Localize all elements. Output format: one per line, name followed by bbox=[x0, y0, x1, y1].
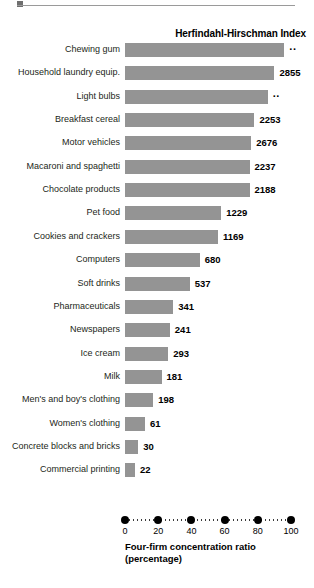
category-label: Milk bbox=[0, 369, 120, 384]
chart-bar bbox=[125, 323, 170, 337]
category-label: Chocolate products bbox=[0, 182, 120, 197]
bar-value-label: 1169 bbox=[223, 229, 244, 244]
chart-bar bbox=[125, 43, 284, 57]
chart-bar-row: Chewing gum.. bbox=[0, 43, 314, 57]
chart-bar-row: Household laundry equip.2855 bbox=[0, 66, 314, 80]
category-label: Pharmaceuticals bbox=[0, 299, 120, 314]
chart-bar-row: Pharmaceuticals341 bbox=[0, 300, 314, 314]
bar-value-label: 30 bbox=[143, 439, 154, 454]
bar-value-label: 22 bbox=[140, 462, 151, 477]
chart-bar bbox=[125, 136, 251, 150]
chart-bar bbox=[125, 230, 218, 244]
chart-bar bbox=[125, 90, 268, 104]
chart-bar-row: Pet food1229 bbox=[0, 206, 314, 220]
chart-bar-row: Light bulbs.. bbox=[0, 90, 314, 104]
chart-bar-row: Chocolate products2188 bbox=[0, 183, 314, 197]
category-label: Newspapers bbox=[0, 322, 120, 337]
x-axis-tick-dot bbox=[254, 516, 262, 524]
chart-bar bbox=[125, 183, 250, 197]
chart-bar-row: Women's clothing61 bbox=[0, 417, 314, 431]
chart-bar-row: Commercial printing22 bbox=[0, 463, 314, 477]
x-axis-tick-label: 100 bbox=[271, 526, 311, 536]
x-axis-title: Four-firm concentration ratio (percentag… bbox=[125, 541, 310, 564]
bar-value-label: .. bbox=[273, 86, 280, 101]
category-label: Motor vehicles bbox=[0, 135, 120, 150]
bar-value-label: 341 bbox=[178, 299, 194, 314]
x-axis-tick-dot bbox=[121, 516, 129, 524]
bar-chart: Herfindahl-Hirschman Index Chewing gum..… bbox=[0, 0, 314, 588]
bar-value-label: .. bbox=[289, 39, 296, 54]
category-label: Pet food bbox=[0, 205, 120, 220]
chart-bar bbox=[125, 370, 162, 384]
category-label: Chewing gum bbox=[0, 42, 120, 57]
bar-value-label: 2855 bbox=[279, 65, 300, 80]
chart-bar-row: Milk181 bbox=[0, 370, 314, 384]
chart-bar bbox=[125, 113, 254, 127]
x-axis-tick-dot bbox=[221, 516, 229, 524]
category-label: Light bulbs bbox=[0, 89, 120, 104]
bar-value-label: 293 bbox=[173, 346, 189, 361]
x-axis-dotted-line bbox=[125, 519, 291, 521]
chart-bar-row: Soft drinks537 bbox=[0, 277, 314, 291]
x-axis-tick-dot bbox=[287, 516, 295, 524]
chart-bar bbox=[125, 393, 153, 407]
bar-value-label: 61 bbox=[150, 416, 161, 431]
x-axis: 020406080100 bbox=[0, 516, 314, 532]
chart-bar-row: Cookies and crackers1169 bbox=[0, 230, 314, 244]
category-label: Breakfast cereal bbox=[0, 112, 120, 127]
bar-value-label: 2237 bbox=[255, 159, 276, 174]
chart-bar bbox=[125, 463, 135, 477]
chart-bar bbox=[125, 66, 274, 80]
bar-value-label: 2676 bbox=[256, 135, 277, 150]
chart-bar bbox=[125, 300, 173, 314]
chart-bar-row: Computers680 bbox=[0, 253, 314, 267]
x-axis-tick-dot bbox=[187, 516, 195, 524]
category-label: Women's clothing bbox=[0, 416, 120, 431]
bar-value-label: 241 bbox=[175, 322, 191, 337]
bar-value-label: 2253 bbox=[259, 112, 280, 127]
chart-bar-row: Ice cream293 bbox=[0, 347, 314, 361]
chart-bar bbox=[125, 206, 221, 220]
category-label: Men's and boy's clothing bbox=[0, 392, 120, 407]
x-axis-tick-dot bbox=[154, 516, 162, 524]
category-label: Soft drinks bbox=[0, 276, 120, 291]
chart-bar-row: Concrete blocks and bricks30 bbox=[0, 440, 314, 454]
chart-title: Herfindahl-Hirschman Index bbox=[0, 28, 306, 39]
bar-value-label: 198 bbox=[158, 392, 174, 407]
bar-value-label: 1229 bbox=[226, 205, 247, 220]
chart-bar-row: Men's and boy's clothing198 bbox=[0, 393, 314, 407]
category-label: Household laundry equip. bbox=[0, 65, 120, 80]
category-label: Ice cream bbox=[0, 346, 120, 361]
chart-bar-row: Motor vehicles2676 bbox=[0, 136, 314, 150]
chart-bar bbox=[125, 277, 190, 291]
x-axis-title-line1: Four-firm concentration ratio bbox=[125, 541, 256, 552]
chart-bar-row: Breakfast cereal2253 bbox=[0, 113, 314, 127]
chart-bar bbox=[125, 160, 250, 174]
bar-value-label: 2188 bbox=[255, 182, 276, 197]
chart-bar bbox=[125, 253, 200, 267]
category-label: Cookies and crackers bbox=[0, 229, 120, 244]
bar-value-label: 680 bbox=[205, 252, 221, 267]
chart-bar-row: Macaroni and spaghetti2237 bbox=[0, 160, 314, 174]
category-label: Computers bbox=[0, 252, 120, 267]
chart-bar bbox=[125, 347, 168, 361]
chart-bar bbox=[125, 417, 145, 431]
chart-bar bbox=[125, 440, 138, 454]
bar-value-label: 537 bbox=[195, 276, 211, 291]
chart-bar-row: Newspapers241 bbox=[0, 323, 314, 337]
category-label: Macaroni and spaghetti bbox=[0, 159, 120, 174]
category-label: Concrete blocks and bricks bbox=[0, 439, 120, 454]
bar-value-label: 181 bbox=[167, 369, 183, 384]
category-label: Commercial printing bbox=[0, 462, 120, 477]
x-axis-title-line2: (percentage) bbox=[125, 553, 182, 564]
